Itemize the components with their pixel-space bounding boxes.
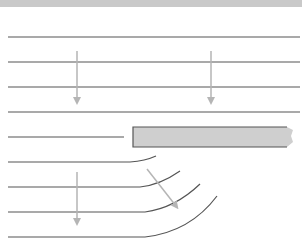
curved-lines	[8, 156, 217, 237]
curve-line-1	[8, 156, 156, 162]
curve-line-4	[8, 196, 217, 237]
obstruction-block	[133, 127, 293, 147]
arrow-lower-diagonal	[147, 169, 176, 206]
straight-lines	[8, 37, 300, 137]
lane-diagram	[0, 0, 302, 243]
curve-line-3	[8, 184, 200, 212]
